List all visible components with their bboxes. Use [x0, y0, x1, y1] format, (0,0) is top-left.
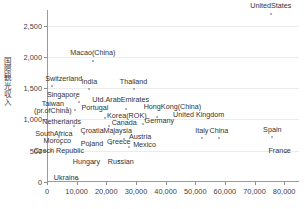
x-tick-label: 60,000: [214, 187, 237, 196]
gridline: [48, 26, 299, 27]
data-point: [125, 108, 127, 110]
y-tick-label: 2,500: [24, 21, 43, 30]
data-point: [133, 88, 135, 90]
data-point: [51, 85, 53, 87]
data-point-label: Mexico: [133, 141, 156, 149]
scatter-chart: 国 際 観 光 収 入 05001,0001,5002,0002,500 010…: [0, 0, 305, 209]
y-tick-label: 1,500: [24, 84, 43, 93]
y-tick-label: 0: [38, 178, 42, 187]
x-tick-label: 80,000: [273, 187, 296, 196]
y-tick-mark: [44, 88, 47, 89]
x-tick-label: 10,000: [65, 187, 88, 196]
data-point-label: Netherlands: [42, 118, 81, 126]
data-point-label: Poland: [81, 140, 103, 148]
x-tick-label: 50,000: [184, 187, 207, 196]
x-tick-mark: [225, 182, 226, 185]
x-tick-label: 70,000: [243, 187, 266, 196]
x-tick-label: 40,000: [154, 187, 177, 196]
data-point: [88, 88, 90, 90]
x-tick-mark: [255, 182, 256, 185]
data-point-label: India: [82, 78, 98, 86]
data-point: [270, 13, 272, 15]
data-point-label: Switzerland: [45, 76, 82, 84]
data-point-label: Thailand: [120, 78, 148, 86]
data-point-label: Morocco: [43, 137, 71, 145]
gridline: [48, 151, 299, 152]
x-tick-mark: [284, 182, 285, 185]
x-tick-mark: [136, 182, 137, 185]
data-point-label: Italy: [195, 127, 208, 135]
data-point: [92, 60, 94, 62]
data-point: [74, 109, 76, 111]
data-point: [218, 137, 220, 139]
data-point-label: Greece: [107, 139, 131, 147]
y-tick-mark: [44, 57, 47, 58]
x-tick-mark: [166, 182, 167, 185]
data-point-label: Russian: [108, 159, 134, 167]
x-tick-label: 20,000: [95, 187, 118, 196]
x-tick-label: 30,000: [125, 187, 148, 196]
plot-area: 05001,0001,5002,0002,500 010,00020,00030…: [47, 10, 299, 182]
data-point: [271, 136, 273, 138]
y-tick-label: 2,000: [24, 52, 43, 61]
data-point-label: Malaysia: [104, 128, 132, 136]
data-point-label: France: [268, 147, 290, 155]
data-point: [104, 117, 106, 119]
data-point-label: Hungary: [73, 158, 100, 166]
x-tick-label: 0: [45, 187, 49, 196]
data-point-label: Ukraine: [54, 174, 79, 182]
gridline: [48, 88, 299, 89]
x-tick-mark: [195, 182, 196, 185]
data-point-label: Spain: [263, 126, 281, 134]
data-point-label: Portugal: [81, 104, 108, 112]
data-point: [201, 137, 203, 139]
data-point-label: Macao(China): [70, 49, 115, 57]
x-tick-mark: [106, 182, 107, 185]
data-point-label: Croatia: [80, 128, 103, 136]
data-point: [78, 101, 80, 103]
y-axis-title: 国 際 観 光 収 入: [1, 58, 14, 107]
data-point-label: UnitedStates: [250, 2, 291, 10]
data-point-label: Taiwan (pr.ofChina): [34, 100, 72, 116]
data-point-label: China: [210, 127, 229, 135]
data-point: [128, 146, 130, 148]
x-axis-line: [47, 181, 299, 182]
x-tick-mark: [47, 182, 48, 185]
y-tick-label: 1,000: [24, 115, 43, 124]
x-tick-mark: [77, 182, 78, 185]
data-point-label: United Kingdom: [173, 111, 224, 119]
data-point-label: Germany: [145, 117, 175, 125]
y-tick-mark: [44, 26, 47, 27]
data-point-label: Czech Republic: [34, 147, 84, 155]
